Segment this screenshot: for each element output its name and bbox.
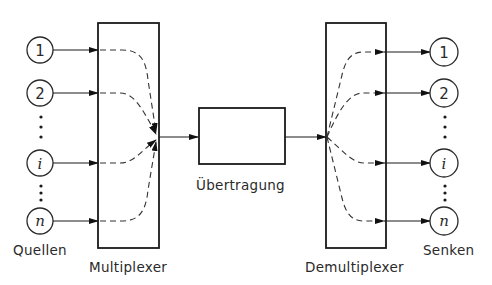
- demultiplexer-box: [326, 23, 386, 248]
- source-ellipsis-upper: [39, 115, 42, 138]
- multiplex-diagram: 1 2 i n Quellen: [0, 0, 492, 285]
- ellipsis-dot-icon: [39, 125, 42, 128]
- sources-group: 1 2 i n Quellen: [13, 37, 67, 258]
- mux-path-i: [100, 140, 156, 163]
- demux-path-i: [327, 137, 384, 163]
- channel-box: [199, 108, 285, 164]
- channel-label: Übertragung: [196, 176, 285, 193]
- source-node-2: 2: [27, 80, 53, 106]
- sink-ellipsis-lower: [443, 184, 446, 201]
- ellipsis-dot-icon: [39, 191, 42, 194]
- source-label-n: n: [35, 212, 45, 230]
- source-node-1: 1: [27, 37, 53, 63]
- source-node-i: i: [27, 150, 53, 176]
- sink-node-i: i: [430, 149, 458, 177]
- sink-label-i: i: [442, 155, 447, 173]
- ellipsis-dot-icon: [39, 115, 42, 118]
- channel-block: Übertragung: [196, 108, 285, 193]
- demux-path-n: [327, 137, 384, 221]
- multiplexer-block: Multiplexer: [89, 23, 167, 275]
- sink-node-2: 2: [430, 79, 458, 107]
- sink-node-n: n: [430, 207, 458, 235]
- source-label-1: 1: [35, 42, 45, 60]
- sink-ellipsis-upper: [443, 115, 446, 138]
- demultiplexer-label: Demultiplexer: [305, 259, 404, 275]
- mux-path-2: [100, 93, 156, 134]
- sources-label: Quellen: [13, 242, 67, 258]
- sink-node-1: 1: [430, 38, 458, 66]
- sinks-label: Senken: [423, 242, 474, 258]
- source-label-2: 2: [35, 85, 45, 103]
- mux-path-n: [100, 142, 156, 221]
- source-ellipsis-lower: [39, 184, 42, 201]
- ellipsis-dot-icon: [443, 191, 446, 194]
- ellipsis-dot-icon: [443, 125, 446, 128]
- ellipsis-dot-icon: [443, 115, 446, 118]
- source-node-n: n: [27, 208, 53, 234]
- sinks-group: 1 2 i n Senken: [423, 38, 474, 258]
- sink-label-1: 1: [439, 44, 449, 62]
- ellipsis-dot-icon: [443, 135, 446, 138]
- demux-path-2: [327, 93, 384, 137]
- ellipsis-dot-icon: [39, 184, 42, 187]
- multiplexer-label: Multiplexer: [89, 259, 167, 275]
- multiplexer-box: [98, 23, 159, 248]
- source-label-i: i: [38, 155, 43, 173]
- ellipsis-dot-icon: [39, 135, 42, 138]
- ellipsis-dot-icon: [443, 198, 446, 201]
- sink-label-2: 2: [439, 85, 449, 103]
- ellipsis-dot-icon: [443, 184, 446, 187]
- source-input-lines: [53, 50, 98, 221]
- ellipsis-dot-icon: [39, 198, 42, 201]
- sink-output-lines: [384, 52, 430, 221]
- demultiplexer-block: Demultiplexer: [305, 23, 404, 275]
- sink-label-n: n: [439, 212, 449, 230]
